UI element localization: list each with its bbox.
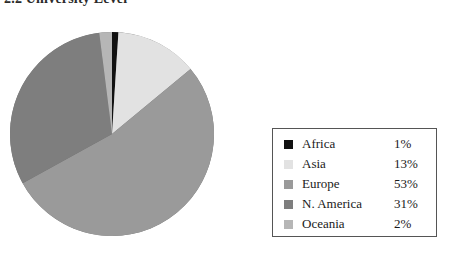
legend-item-value: 2% <box>394 216 411 232</box>
pie-chart-svg <box>8 18 216 244</box>
legend: Africa1%Asia13%Europe53%N. America31%Oce… <box>272 128 437 237</box>
legend-item[interactable]: Europe53% <box>273 174 436 194</box>
legend-item[interactable]: Asia13% <box>273 154 436 174</box>
legend-item-label: Asia <box>302 156 394 172</box>
figure-title: 2.2 University Level <box>0 0 260 8</box>
figure-title-text: 2.2 University Level <box>4 0 127 7</box>
legend-item-label: N. America <box>302 196 394 212</box>
pie-chart-figure: 2.2 University Level Africa1%Asia13%Euro… <box>0 0 449 268</box>
legend-item-value: 1% <box>394 136 411 152</box>
legend-item-value: 31% <box>394 196 418 212</box>
legend-item-value: 13% <box>394 156 418 172</box>
legend-swatch-icon <box>284 160 293 169</box>
legend-item-label: Oceania <box>302 216 394 232</box>
pie-chart <box>8 18 216 244</box>
legend-swatch-icon <box>284 200 293 209</box>
legend-item-value: 53% <box>394 176 418 192</box>
legend-swatch-icon <box>284 220 293 229</box>
legend-item-label: Africa <box>302 136 394 152</box>
legend-item[interactable]: Oceania2% <box>273 214 436 234</box>
pie-slices <box>10 32 214 236</box>
legend-swatch-icon <box>284 180 293 189</box>
legend-item-label: Europe <box>302 176 394 192</box>
legend-swatch-icon <box>284 140 293 149</box>
legend-item[interactable]: N. America31% <box>273 194 436 214</box>
legend-item[interactable]: Africa1% <box>273 134 436 154</box>
